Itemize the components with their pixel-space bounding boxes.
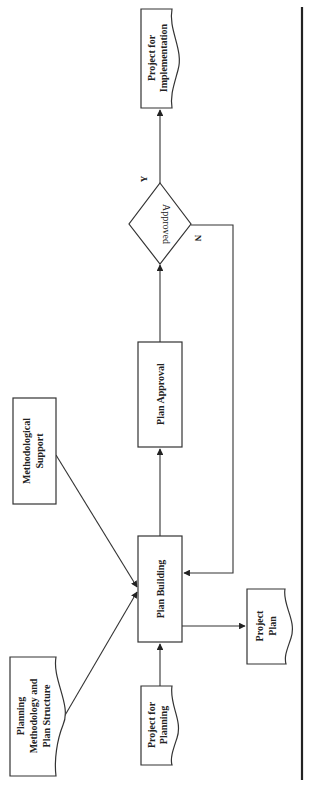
node-label-line1: Project for — [146, 701, 157, 748]
node-methodological-support: Methodological Support — [13, 398, 56, 504]
node-label: Approved — [161, 204, 172, 244]
edge-support-input — [56, 455, 137, 587]
node-label: Plan Building — [155, 560, 166, 619]
node-label-line1: Project for — [146, 34, 157, 81]
node-label-line2: Plan — [267, 616, 278, 636]
edge-label-no: N — [193, 235, 203, 242]
edge-label-yes: Y — [139, 175, 149, 182]
node-label-line2: Implementation — [158, 23, 169, 92]
node-label-line1: Planning — [15, 697, 26, 735]
node-planning-methodology: Planning Methodology and Plan Structure — [10, 657, 65, 776]
node-label-line2: Support — [34, 433, 45, 469]
node-project-plan: Project Plan — [247, 589, 292, 664]
node-label-line2: Planning — [158, 706, 169, 744]
node-label-line1: Project — [254, 610, 265, 642]
node-project-for-planning: Project for Planning — [141, 686, 179, 765]
edge-methodology-input — [64, 592, 137, 717]
node-label-line1: Methodological — [21, 418, 32, 484]
node-plan-building: Plan Building — [138, 536, 182, 642]
flowchart-canvas: Project for Implementation Y Approved N … — [0, 0, 312, 786]
node-project-for-implementation: Project for Implementation — [141, 9, 179, 108]
node-label-line3: Plan Structure — [41, 684, 52, 747]
node-label: Plan Approval — [155, 363, 166, 425]
edge-no-loop — [184, 225, 233, 573]
node-plan-approval: Plan Approval — [138, 342, 182, 447]
node-label-line2: Methodology and — [28, 678, 39, 753]
node-approved-decision: Approved — [129, 183, 191, 264]
